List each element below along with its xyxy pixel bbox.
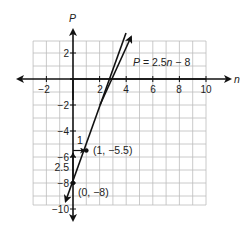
y-tick-labels: 2 −2 −4 −6 −8 −10 — [52, 48, 69, 215]
svg-text:4: 4 — [123, 84, 129, 95]
svg-text:2: 2 — [63, 48, 69, 59]
point-0-neg8 — [71, 181, 76, 186]
svg-text:−2: −2 — [58, 100, 70, 111]
equation-label: P = 2.5n − 8 — [133, 56, 190, 68]
y-axis-label: P — [69, 12, 76, 24]
x-axis-label: n — [234, 73, 240, 85]
svg-text:10: 10 — [200, 84, 212, 95]
point-a-label: (0, −8) — [78, 186, 109, 198]
svg-text:8: 8 — [176, 84, 182, 95]
svg-text:6: 6 — [150, 84, 156, 95]
svg-text:−4: −4 — [58, 126, 70, 137]
svg-text:2: 2 — [97, 84, 103, 95]
run-label: 1 — [77, 134, 83, 146]
svg-text:−8: −8 — [58, 178, 70, 189]
svg-text:−2: −2 — [38, 84, 50, 95]
rise-label: 2.5 — [54, 161, 69, 173]
line-chart: P n −2 2 4 6 8 10 2 −2 −4 −6 −8 −10 1 2.… — [0, 0, 249, 233]
point-b-label: (1, −5.5) — [93, 144, 132, 156]
function-line — [66, 33, 126, 201]
svg-text:−10: −10 — [52, 204, 69, 215]
x-tick-labels: −2 2 4 6 8 10 — [38, 84, 212, 95]
point-1-neg5-5 — [84, 148, 89, 153]
axes — [18, 30, 230, 220]
